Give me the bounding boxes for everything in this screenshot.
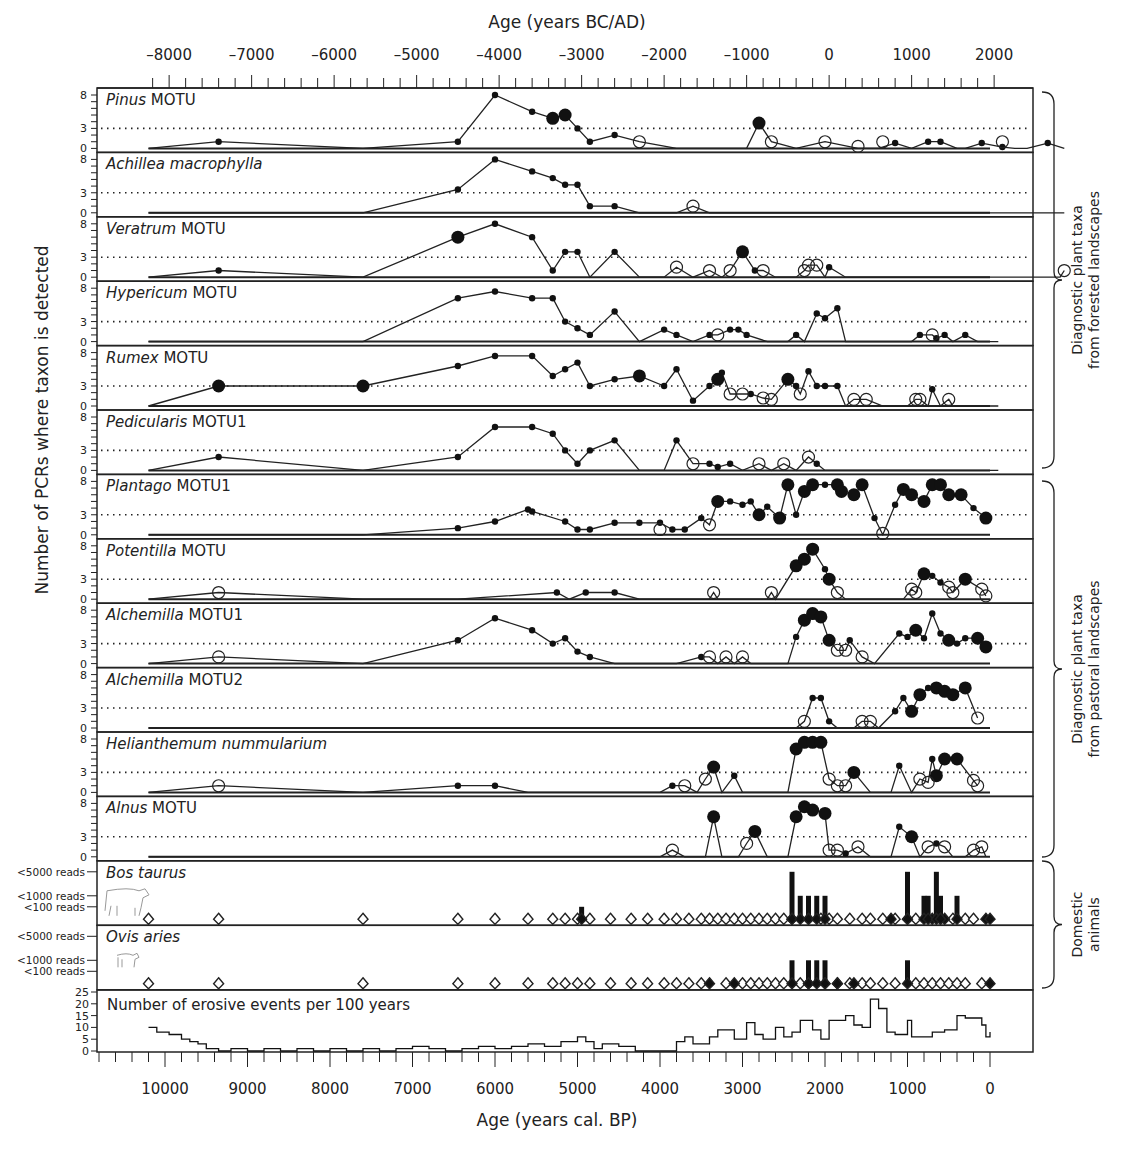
open-diamond — [684, 913, 694, 924]
filled-marker-large — [959, 681, 972, 694]
filled-marker — [455, 525, 461, 531]
open-diamond — [144, 913, 154, 924]
filled-marker-large — [790, 810, 803, 823]
top-tick-label: –7000 — [229, 46, 275, 64]
y-tick-label: 3 — [80, 444, 87, 457]
taxon-name: Achillea macrophylla — [105, 155, 263, 173]
filled-marker — [698, 515, 704, 521]
y-tick-label: 3 — [80, 122, 87, 135]
filled-marker — [822, 566, 828, 572]
filled-marker — [892, 502, 898, 508]
panel-veratrum-motu: 038Veratrum MOTU — [80, 217, 1070, 284]
open-diamond — [358, 978, 368, 989]
bottom-tick-label: 0 — [985, 1080, 995, 1098]
filled-marker — [574, 182, 580, 188]
filled-marker-large — [905, 488, 918, 501]
filled-marker — [892, 708, 898, 714]
filled-marker — [562, 249, 568, 255]
filled-marker-large — [781, 373, 794, 386]
filled-marker — [937, 139, 943, 145]
open-diamond — [626, 913, 636, 924]
filled-marker — [822, 315, 828, 321]
open-diamond — [144, 978, 154, 989]
filled-marker — [727, 326, 733, 332]
top-tick-label: –2000 — [641, 46, 687, 64]
filled-marker — [587, 139, 593, 145]
reads-tick-label: <100 reads — [24, 965, 85, 977]
filled-marker — [1045, 140, 1051, 146]
panel-pedicularis-motu1: 038Pedicularis MOTU1 — [80, 410, 1033, 477]
open-diamond — [453, 978, 463, 989]
y-tick-label: 8 — [80, 540, 87, 553]
filled-marker — [793, 332, 799, 338]
animal-name: Bos taurus — [106, 864, 186, 882]
filled-marker — [673, 437, 679, 443]
filled-marker — [735, 326, 741, 332]
panel-potentilla-motu: 038Potentilla MOTU — [80, 539, 1033, 606]
y-tick-label: 3 — [80, 509, 87, 522]
filled-marker-large — [781, 478, 794, 491]
filled-marker — [529, 295, 535, 301]
group-brackets: Diagnostic plant taxafrom forested lands… — [1042, 92, 1102, 988]
erosion-title: Number of erosive events per 100 years — [107, 996, 410, 1014]
filled-marker-large — [909, 624, 922, 637]
bracket-1 — [1042, 481, 1062, 857]
filled-marker-large — [773, 512, 786, 525]
filled-marker — [929, 610, 935, 616]
open-diamond — [659, 978, 669, 989]
open-diamond — [490, 978, 500, 989]
filled-marker — [611, 132, 617, 138]
filled-marker-large — [357, 379, 370, 392]
taxon-name: Potentilla MOTU — [106, 542, 226, 560]
filled-marker-large — [918, 495, 931, 508]
filled-diamond — [787, 978, 797, 989]
filled-marker-large — [753, 117, 766, 130]
reads-bar — [790, 872, 795, 920]
filled-marker-large — [546, 112, 559, 125]
panel-plantago-motu1: 038Plantago MOTU1 — [80, 474, 1033, 541]
filled-marker — [611, 520, 617, 526]
open-diamond — [626, 978, 636, 989]
open-diamond — [659, 913, 669, 924]
group-label: from pastoral landscapes — [1086, 580, 1102, 757]
open-diamond — [606, 913, 616, 924]
filled-marker — [834, 305, 840, 311]
y-tick-label: 3 — [80, 638, 87, 651]
filled-marker-large — [798, 553, 811, 566]
top-tick-label: –8000 — [146, 46, 192, 64]
filled-marker — [896, 824, 902, 830]
filled-marker — [748, 498, 754, 504]
y-axis-label: Number of PCRs where taxon is detected — [32, 245, 52, 594]
y-tick-label: 8 — [80, 347, 87, 360]
filled-marker-large — [814, 736, 827, 749]
filled-marker — [892, 140, 898, 146]
y-tick-label: 8 — [80, 89, 87, 102]
filled-marker — [562, 366, 568, 372]
filled-marker — [941, 332, 947, 338]
bottom-tick-label: 10000 — [141, 1080, 189, 1098]
top-tick-label: 0 — [824, 46, 834, 64]
filled-marker-large — [955, 488, 968, 501]
series-line — [149, 224, 1065, 277]
filled-marker-large — [942, 634, 955, 647]
filled-marker — [574, 648, 580, 654]
group-label: Diagnostic plant taxa — [1069, 594, 1085, 744]
taxon-name: Plantago MOTU1 — [106, 477, 231, 495]
taxon-name: Pinus MOTU — [106, 91, 196, 109]
filled-marker — [562, 318, 568, 324]
open-diamond — [573, 978, 583, 989]
open-diamond — [672, 913, 682, 924]
filled-marker — [611, 437, 617, 443]
cow-icon — [105, 889, 149, 916]
filled-marker — [847, 637, 853, 643]
y-tick-label: 3 — [80, 766, 87, 779]
series-line — [149, 292, 999, 342]
filled-marker — [764, 504, 770, 510]
filled-marker — [611, 203, 617, 209]
filled-marker — [611, 589, 617, 595]
open-diamond — [960, 978, 970, 989]
filled-marker — [809, 695, 815, 701]
filled-marker — [529, 353, 535, 359]
filled-diamond — [705, 978, 715, 989]
filled-marker-large — [979, 512, 992, 525]
